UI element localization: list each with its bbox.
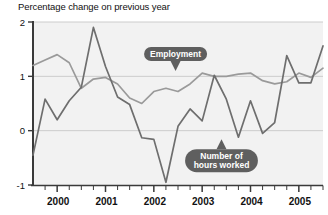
y-axis-tick-label: 0 <box>20 125 25 136</box>
y-axis-tick-label: 2 <box>20 17 25 28</box>
x-axis-ticks-group <box>45 186 323 193</box>
x-axis-labels-group: 200020012002200320042005 <box>47 196 311 207</box>
x-axis-tick-label: 2004 <box>240 196 263 207</box>
plot-background <box>33 22 323 185</box>
x-axis-tick-label: 2000 <box>47 196 70 207</box>
y-axis-labels-group: 210-1 <box>17 17 25 191</box>
x-axis-tick-label: 2002 <box>144 196 167 207</box>
x-axis-tick-label: 2003 <box>192 196 215 207</box>
y-axis-tick-label: -1 <box>17 180 25 191</box>
y-axis-tick-label: 1 <box>20 71 25 82</box>
callout-label: hours worked <box>194 160 250 170</box>
line-chart-svg: 210-1 200020012002200320042005 Employmen… <box>0 0 328 215</box>
callout-label: Employment <box>150 49 201 59</box>
callout-label: Number of <box>200 151 243 161</box>
x-axis-tick-label: 2001 <box>95 196 118 207</box>
x-axis-tick-label: 2005 <box>289 196 312 207</box>
chart-container: Percentage change on previous year 210-1… <box>0 0 328 215</box>
